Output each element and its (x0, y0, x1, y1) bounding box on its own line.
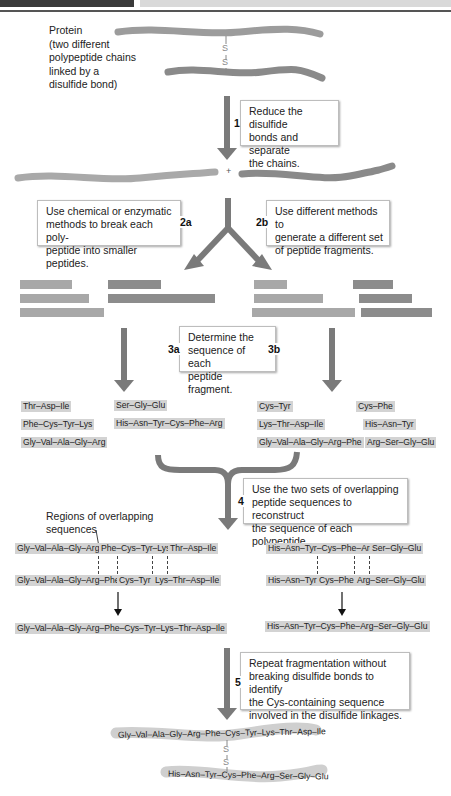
aligned-peptide: His–Asn–Tyr–Cys–Phe–Arg (266, 543, 377, 554)
overlap-label: Regions of overlapping sequences (46, 510, 153, 536)
reconstructed-chain-2: His–Asn–Tyr–Cys–Phe–Arg–Ser–Gly–Glu (265, 621, 430, 632)
step-4-box: Use the two sets of overlapping peptide … (243, 478, 408, 524)
step-3-text: sequence of each (188, 344, 269, 370)
disulfide-s2: S (222, 57, 228, 67)
step-3a-number: 3a (168, 343, 180, 355)
peptide-fragment: His–Asn–Tyr–Cys–Phe–Arg (114, 418, 225, 429)
step-5-box: Repeat fragmentation without breaking di… (240, 652, 410, 710)
step-1-box: Reduce the disulfide bonds and separate … (240, 100, 339, 146)
final-disulfide-s2: S (223, 757, 229, 767)
step-2b-text: Use different methods to (275, 205, 383, 231)
step-2a-text: methods to break each poly- (46, 218, 174, 244)
step-1-number: 1 (234, 117, 240, 129)
step-4-number: 4 (238, 495, 244, 507)
step-2a-text: Use chemical or enzymatic (46, 205, 174, 218)
final-disulfide-s1: S (223, 744, 229, 754)
peptide-fragment: Ser–Gly–Glu (114, 400, 167, 411)
plus-sign: + (226, 166, 231, 176)
peptide-fragment: Phe–Cys–Tyr–Lys (21, 419, 94, 430)
fragment-bar (108, 280, 161, 289)
step-3-box: Determine the sequence of each peptide f… (179, 326, 276, 372)
step-3b-number: 3b (268, 343, 280, 355)
overlap-dash (152, 556, 153, 574)
fragment-bar (20, 294, 89, 303)
step-5-text: Repeat fragmentation without (249, 657, 403, 670)
overlap-label-line: sequences (46, 523, 153, 536)
overlap-dash (98, 556, 99, 574)
overlap-label-line: Regions of overlapping (46, 510, 153, 523)
fragment-bar (254, 280, 287, 289)
peptide-fragment: Lys–Thr–Asp–Ile (257, 419, 325, 430)
peptide-fragment: Gly–Val–Ala–Gly–Arg (21, 437, 107, 448)
aligned-peptide: Arg–Ser–Gly–Glu (355, 575, 426, 586)
fragment-bar (361, 308, 432, 317)
peptide-fragment: Cys–Tyr (257, 401, 293, 412)
overlap-dash (317, 556, 318, 574)
reconstructed-chain-1: Gly–Val–Ala–Gly–Arg–Phe–Cys–Tyr–Lys–Thr–… (15, 623, 227, 634)
step-5-text: the Cys-containing sequence (249, 696, 403, 709)
peptide-fragment: His–Asn–Tyr (363, 419, 416, 430)
step-3-text: peptide fragment. (188, 370, 269, 396)
step-2a-box: Use chemical or enzymatic methods to bre… (37, 200, 181, 246)
fragment-bar (20, 280, 72, 289)
fragment-bar (254, 294, 323, 303)
aligned-peptide: Ser–Gly–Glu (370, 543, 423, 554)
aligned-peptide: Gly–Val–Ala–Gly–Arg (15, 543, 101, 554)
aligned-peptide: Lys–Thr–Asp–Ile (153, 575, 221, 586)
step-4-text: Use the two sets of overlapping (252, 483, 401, 496)
peptide-fragment: Cys–Phe (356, 401, 395, 412)
step-5-text: breaking disulfide bonds to identify (249, 670, 403, 696)
step-5-number: 5 (235, 676, 241, 688)
step-2b-number: 2b (256, 216, 268, 228)
overlap-dash (117, 556, 118, 574)
step-2b-box: Use different methods to generate a diff… (266, 200, 390, 246)
aligned-peptide: Phe–Cys–Tyr–Lys (99, 543, 172, 554)
overlap-dash (354, 556, 355, 574)
step-3-text: Determine the (188, 331, 269, 344)
step-2b-text: of peptide fragments. (275, 244, 383, 257)
peptide-fragment: Gly–Val–Ala–Gly–Arg–Phe (257, 437, 364, 448)
fragment-bar (353, 280, 393, 289)
aligned-peptide: Thr–Asp–Ile (168, 543, 218, 554)
step-2a-number: 2a (180, 216, 192, 228)
aligned-peptide: Gly–Val–Ala–Gly–Arg–Phe (15, 575, 122, 586)
step-1-text: bonds and separate (249, 131, 332, 157)
step-5-text: involved in the disulfide linkages. (249, 709, 403, 722)
step-1-text: the chains. (249, 157, 332, 170)
peptide-fragment: Arg–Ser–Gly–Glu (365, 437, 436, 448)
disulfide-s1: S (222, 43, 228, 53)
overlap-dash (167, 556, 168, 574)
step-4-text: peptide sequences to reconstruct (252, 496, 401, 522)
peptide-fragment: Thr–Asp–Ile (21, 401, 71, 412)
aligned-peptide: His–Asn–Tyr (266, 575, 319, 586)
step-1-text: Reduce the disulfide (249, 105, 332, 131)
step-2b-text: generate a different set (275, 231, 383, 244)
overlap-dash (369, 556, 370, 574)
aligned-peptide: Cys–Phe (317, 575, 356, 586)
step-2a-text: peptide into smaller peptides. (46, 244, 174, 270)
aligned-peptide: Cys–Tyr (117, 575, 153, 586)
fragment-bar (359, 294, 412, 303)
fragment-bar (252, 308, 355, 317)
fragment-bar (20, 308, 104, 317)
fragment-bar (108, 294, 215, 303)
